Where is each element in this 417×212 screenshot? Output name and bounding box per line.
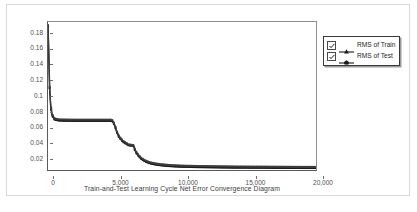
chart-screenshot: 0.020.040.060.080.10.120.140.160.1805,00… [0, 0, 417, 212]
y-axis-tick-mark [50, 143, 53, 144]
chart-legend[interactable]: RMS of Train RMS of Test [323, 36, 400, 66]
line-marker-icon [339, 59, 354, 67]
legend-label-test: RMS of Test [357, 53, 393, 60]
y-axis-tick-label: 0.1 [15, 93, 43, 100]
legend-line-sample-train [339, 42, 354, 50]
legend-item-rms-of-test[interactable]: RMS of Test [327, 51, 395, 62]
y-axis-tick-label: 0.08 [15, 109, 43, 116]
y-axis-tick-label: 0.14 [15, 61, 43, 68]
axis-title: Train-and-Test Learning Cycle Net Error … [47, 185, 317, 192]
legend-checkbox-train[interactable] [327, 41, 336, 50]
y-axis-tick-label: 0.02 [15, 156, 43, 163]
check-icon [329, 54, 335, 60]
y-axis-tick-mark [50, 49, 53, 50]
check-icon [329, 43, 335, 49]
y-axis-tick-label: 0.16 [15, 45, 43, 52]
legend-item-rms-of-train[interactable]: RMS of Train [327, 40, 395, 51]
y-axis-tick-mark [50, 64, 53, 65]
y-axis-tick-label: 0.06 [15, 124, 43, 131]
x-axis-tick-mark [121, 176, 122, 179]
y-axis-tick-mark [50, 112, 53, 113]
legend-line-sample-test [339, 53, 354, 61]
x-axis-tick-mark [256, 176, 257, 179]
legend-checkbox-test[interactable] [327, 52, 336, 61]
x-axis-tick-mark [323, 176, 324, 179]
x-axis-tick-mark [188, 176, 189, 179]
y-axis-tick-mark [50, 33, 53, 34]
y-axis-tick-mark [50, 96, 53, 97]
legend-label-train: RMS of Train [357, 42, 395, 49]
y-axis-tick-label: 0.12 [15, 77, 43, 84]
x-axis-tick-mark [53, 176, 54, 179]
y-axis-tick-label: 0.18 [15, 30, 43, 37]
chart-frame: 0.020.040.060.080.10.120.140.160.1805,00… [6, 4, 410, 196]
y-axis-tick-mark [50, 128, 53, 129]
y-axis-tick-label: 0.04 [15, 140, 43, 147]
y-axis-tick-mark [50, 80, 53, 81]
y-axis-tick-mark [50, 159, 53, 160]
